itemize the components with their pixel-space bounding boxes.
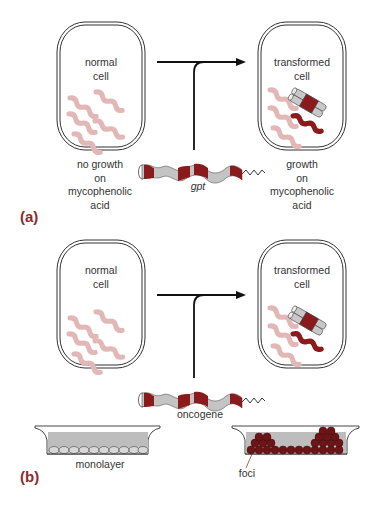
transfection-arrow-a (157, 58, 246, 150)
transfection-arrow-b (157, 291, 246, 378)
title-line: cell (62, 278, 140, 292)
title-line: transformed (258, 264, 346, 278)
title-line: cell (258, 70, 346, 84)
transformed-cell-b (258, 240, 346, 368)
caption-line: acid (50, 199, 150, 213)
normal-cell-b (57, 240, 145, 374)
transformed-cell-a-caption: growth on mycophenolic acid (252, 158, 352, 212)
transformed-cell-b-title: transformed cell (258, 264, 346, 291)
transformed-cell-a (258, 22, 346, 150)
normal-cell-a-title: normal cell (62, 56, 140, 83)
title-line: transformed (258, 56, 346, 70)
caption-line: on (252, 172, 352, 186)
caption-line: acid (252, 199, 352, 213)
caption-line: mycophenolic (50, 185, 150, 199)
caption-line: growth (252, 158, 352, 172)
dish-monolayer (35, 426, 160, 454)
gpt-gene-label: gpt (178, 180, 218, 194)
monolayer-label: monolayer (60, 458, 140, 472)
normal-cell-a (57, 22, 145, 154)
transformed-cell-a-title: transformed cell (258, 56, 346, 83)
title-line: cell (62, 70, 140, 84)
title-line: normal (62, 56, 140, 70)
dish-foci (232, 426, 359, 468)
caption-line: mycophenolic (252, 185, 352, 199)
title-line: normal (62, 264, 140, 278)
foci-label: foci (232, 467, 262, 481)
normal-cell-b-title: normal cell (62, 264, 140, 291)
caption-line: no growth (50, 158, 150, 172)
panel-a-label: (a) (20, 208, 38, 225)
oncogene-label: oncogene (160, 408, 240, 422)
panel-b-label: (b) (20, 468, 39, 485)
title-line: cell (258, 278, 346, 292)
caption-line: on (50, 172, 150, 186)
normal-cell-a-caption: no growth on mycophenolic acid (50, 158, 150, 212)
